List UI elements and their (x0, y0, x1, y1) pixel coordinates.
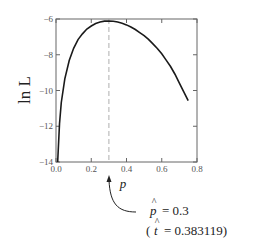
x-tick-label: 0.2 (86, 164, 97, 174)
arrowhead-icon (107, 175, 112, 182)
chart: −6 −8 −10 −12 −14 0.0 0.2 0.4 0.6 0.8 ln… (0, 0, 255, 251)
y-tick-label: −10 (39, 86, 54, 96)
y-tick-label: −12 (39, 121, 53, 131)
x-tick-label: 0.8 (191, 164, 203, 174)
x-tick-label: 0.0 (50, 164, 62, 174)
annotation-t-symbol: t (154, 223, 158, 238)
y-tick-label: −6 (43, 14, 53, 24)
annotation-p-value: = 0.3 (162, 203, 189, 218)
x-axis-label: p (119, 176, 127, 191)
y-axis-label: ln L (15, 76, 34, 104)
annotation-t-value: = 0.383119) (164, 223, 227, 238)
y-tick-label: −8 (43, 50, 53, 60)
annotation-paren-open: ( (146, 223, 150, 238)
x-tick-label: 0.4 (121, 164, 133, 174)
x-tick-label: 0.6 (156, 164, 168, 174)
